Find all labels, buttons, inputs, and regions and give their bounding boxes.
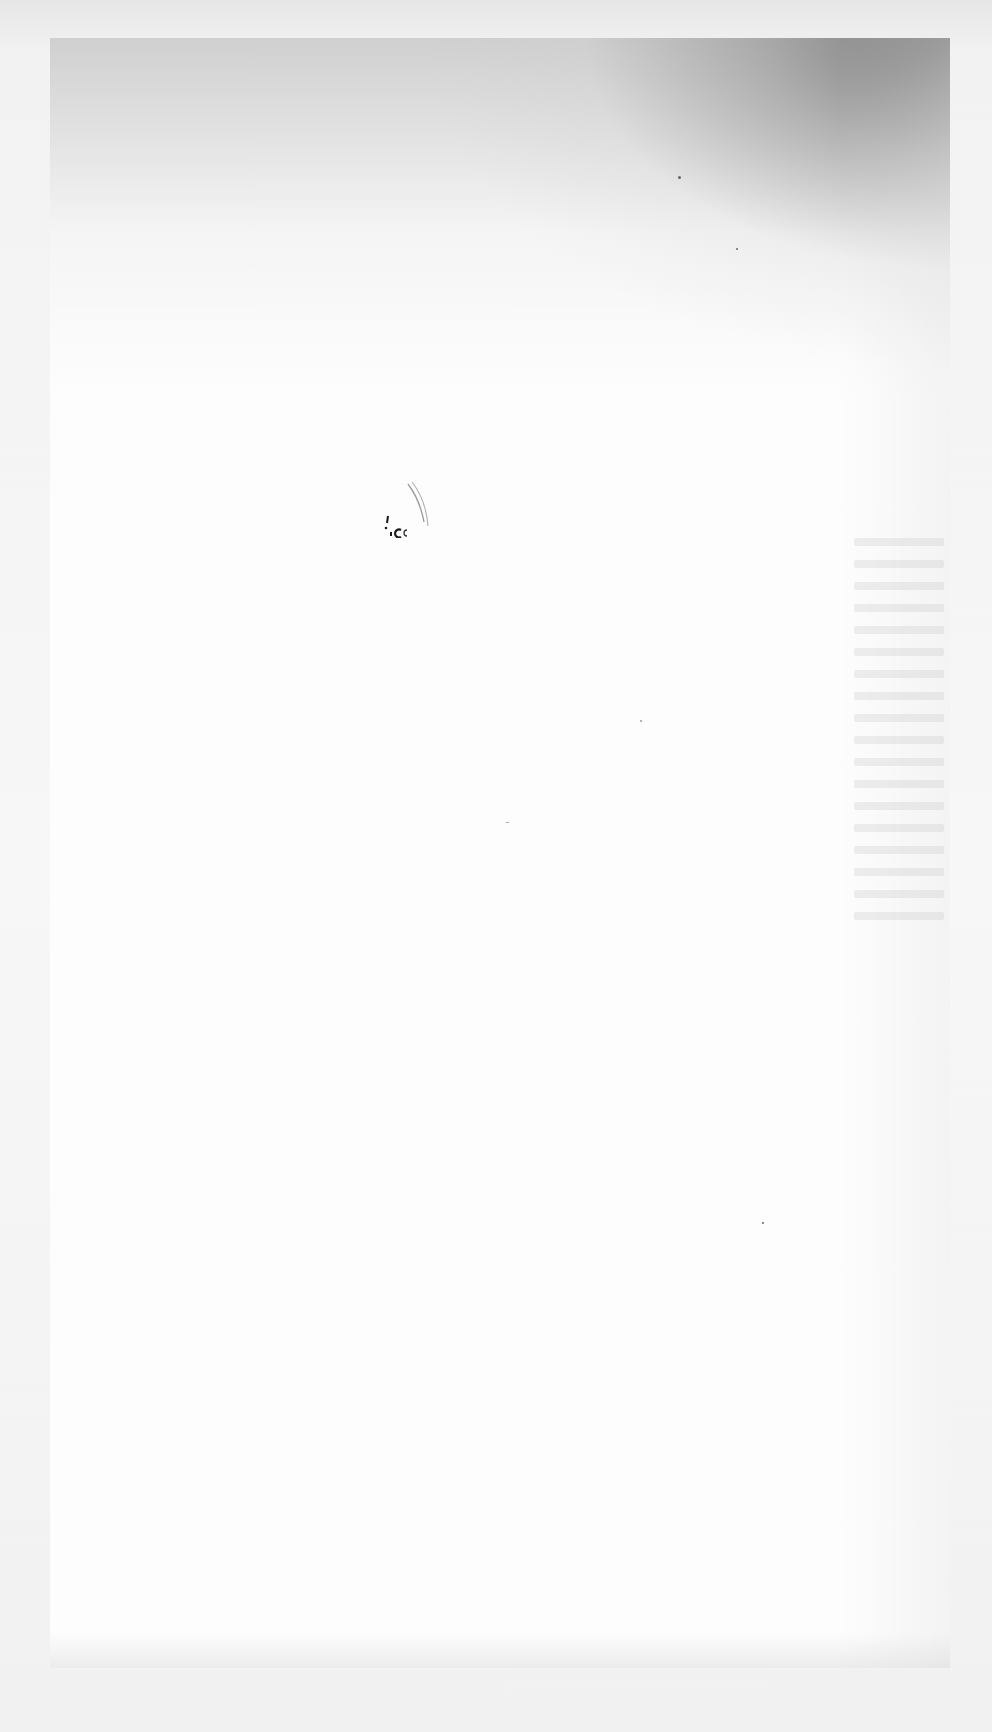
scanned-page: [50, 38, 950, 1668]
dust-speck: [736, 248, 738, 250]
dust-speck: [506, 822, 509, 823]
dust-speck: [640, 720, 642, 722]
page-shadow-gradient: [50, 38, 950, 1668]
dust-speck: [762, 1222, 764, 1224]
handwritten-ink-mark: [368, 478, 438, 538]
bleed-through-text-right: [854, 538, 944, 920]
dust-speck: [678, 176, 681, 179]
bleed-through-text-bottom: [50, 1632, 950, 1668]
